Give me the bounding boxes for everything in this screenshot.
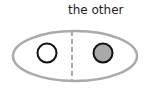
right-circle	[94, 44, 113, 63]
left-circle	[38, 44, 57, 63]
container-ellipse	[13, 31, 137, 81]
diagram-canvas	[0, 0, 143, 93]
